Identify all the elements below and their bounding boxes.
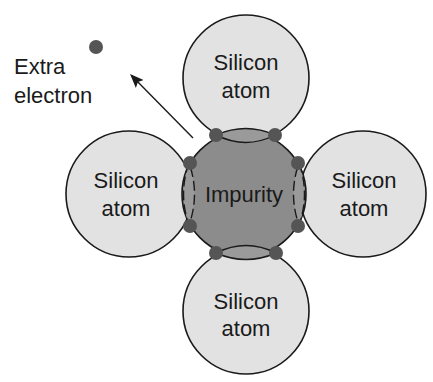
electron-dot — [268, 128, 282, 142]
electron-dot — [183, 219, 197, 233]
electron-dot — [291, 219, 305, 233]
atom-label-line1: Silicon — [332, 168, 397, 193]
atom-label-line2: atom — [102, 196, 151, 221]
silicon-atom-right: Silicon atom — [300, 131, 426, 257]
electron-dot — [183, 156, 197, 170]
atom-label-line2: atom — [222, 316, 271, 341]
impurity-diagram: Silicon atom Silicon atom Silicon atom S… — [0, 0, 433, 382]
impurity-atom: Impurity — [182, 129, 306, 260]
impurity-label: Impurity — [205, 182, 283, 207]
silicon-atom-top: Silicon atom — [183, 15, 309, 141]
silicon-atom-bottom: Silicon atom — [183, 248, 309, 374]
extra-electron-dot — [89, 40, 103, 54]
atom-label-line1: Silicon — [94, 168, 159, 193]
electron-dot — [291, 156, 305, 170]
extra-electron-label-line2: electron — [14, 83, 92, 108]
electron-dot — [209, 128, 223, 142]
atom-label-line1: Silicon — [214, 50, 279, 75]
atom-label-line1: Silicon — [214, 289, 279, 314]
atom-label-line2: atom — [222, 78, 271, 103]
atom-label-line2: atom — [340, 196, 389, 221]
electron-dot — [269, 246, 283, 260]
extra-electron-label-line1: Extra — [14, 54, 66, 79]
silicon-atom-left: Silicon atom — [66, 131, 192, 257]
electron-dot — [209, 246, 223, 260]
